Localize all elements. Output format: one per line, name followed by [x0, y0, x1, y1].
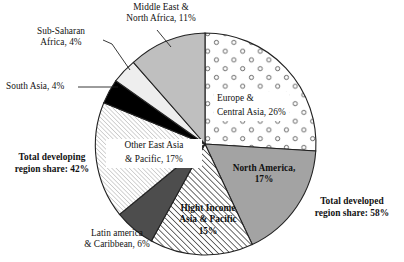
label-latin-america-line1: Latin america — [68, 228, 166, 239]
label-north-america-line1: North America, — [222, 163, 306, 174]
label-latin-america-caribbean: Latin america & Caribbean, 6% — [68, 228, 166, 251]
developing-total-line2: region share: 42% — [0, 164, 104, 176]
leader-line-sub-saharan-2 — [112, 44, 130, 70]
label-europe-line2: Central Asia, 26% — [214, 106, 289, 120]
label-hight-income-line2: Asia & Pacific — [169, 214, 247, 225]
developing-total-line1: Total developing — [0, 152, 104, 164]
developed-total-line2: region share: 58% — [302, 208, 402, 220]
label-europe-line1: Europe & — [214, 92, 289, 106]
label-north-america-line2: 17% — [222, 174, 306, 185]
label-sub-saharan-line1: Sub-Saharan — [18, 26, 104, 37]
label-middle-east-line1: Middle East & — [108, 2, 214, 13]
label-north-america: North America, 17% — [222, 163, 306, 186]
label-total-developing-share: Total developing region share: 42% — [0, 152, 104, 175]
label-other-east-asia-line2: & Pacific, 17% — [106, 153, 202, 167]
leader-line-sub-saharan — [103, 40, 112, 44]
label-total-developed-share: Total developed region share: 58% — [302, 196, 402, 219]
label-sub-saharan-line2: Africa, 4% — [18, 37, 104, 48]
label-hight-income-line1: Hight Income — [169, 203, 247, 214]
label-sub-saharan-africa: Sub-Saharan Africa, 4% — [18, 26, 104, 49]
label-middle-east-line2: North Africa, 11% — [108, 13, 214, 24]
label-latin-america-line2: & Caribbean, 6% — [68, 239, 166, 250]
label-middle-east-north-africa: Middle East & North Africa, 11% — [108, 2, 214, 25]
label-south-asia: South Asia, 4% — [6, 81, 64, 92]
pie-chart-figure: Middle East & North Africa, 11% Sub-Saha… — [0, 0, 404, 262]
label-south-asia-line1: South Asia, 4% — [6, 81, 64, 92]
label-hight-income-asia-pacific: Hight Income Asia & Pacific 15% — [169, 203, 247, 237]
label-europe-central-asia: Europe & Central Asia, 26% — [214, 92, 289, 121]
developed-total-line1: Total developed — [302, 196, 402, 208]
label-other-east-asia-line1: Other East Asia — [106, 139, 202, 153]
label-hight-income-line3: 15% — [169, 226, 247, 237]
label-other-east-asia-pacific: Other East Asia & Pacific, 17% — [106, 139, 202, 168]
